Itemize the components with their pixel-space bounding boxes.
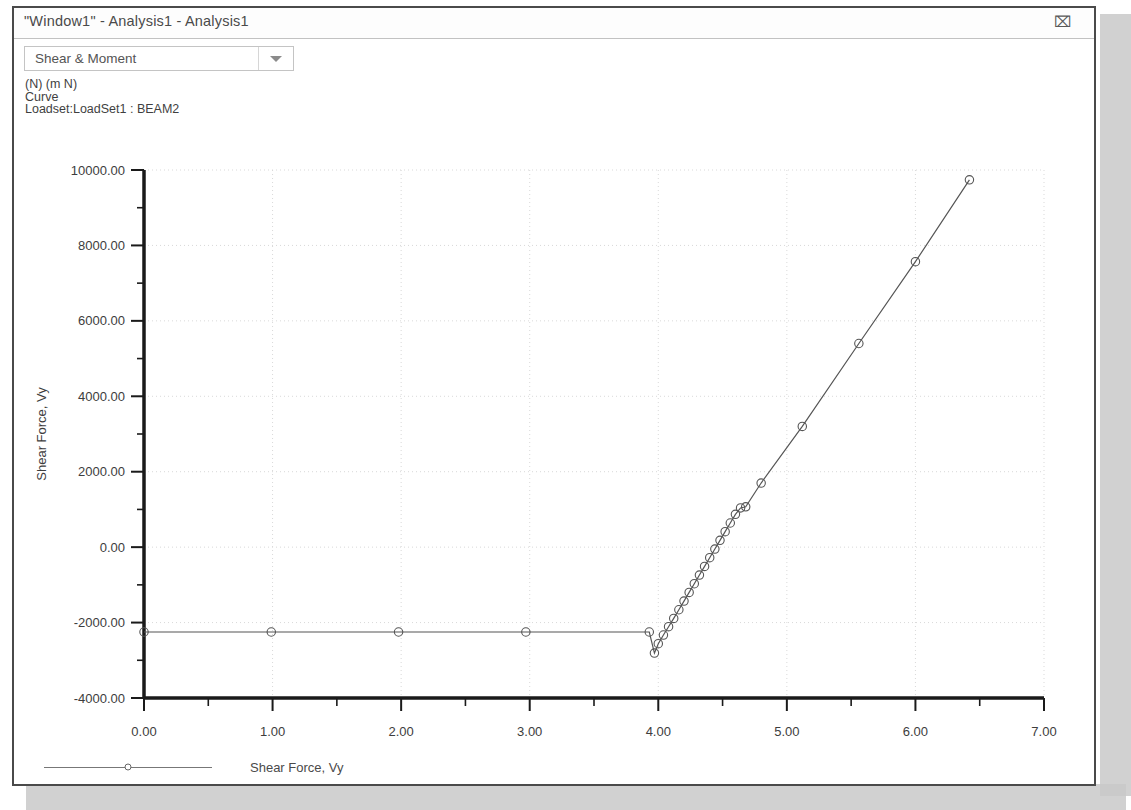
- x-axis-tick-label: 0.00: [131, 724, 156, 739]
- window-titlebar: "Window1" - Analysis1 - Analysis1 ⌧: [14, 8, 1094, 39]
- y-axis-tick-label: -4000.00: [74, 691, 125, 706]
- y-axis-tick-label: 10000.00: [71, 163, 125, 178]
- x-axis-tick-label: 6.00: [903, 724, 928, 739]
- result-type-dropdown-value: Shear & Moment: [35, 51, 136, 66]
- chart-legend: Shear Force, Vy: [44, 756, 343, 778]
- window-title: "Window1" - Analysis1 - Analysis1: [24, 13, 249, 29]
- legend-marker-icon: [125, 764, 132, 771]
- y-axis-tick-label: 4000.00: [78, 389, 125, 404]
- x-axis-tick-label: 2.00: [388, 724, 413, 739]
- y-axis-tick-label: -2000.00: [74, 615, 125, 630]
- x-axis-tick-label: 1.00: [260, 724, 285, 739]
- chart-plot-area: -4000.00-2000.000.002000.004000.006000.0…: [14, 108, 1094, 748]
- result-type-dropdown[interactable]: Shear & Moment: [24, 46, 294, 71]
- dropdown-divider: [258, 47, 259, 70]
- subtitle-units: (N) (m N): [25, 78, 179, 91]
- y-axis-tick-label: 0.00: [100, 540, 125, 555]
- desktop-shadow-bottom: [26, 784, 1126, 810]
- screenshot-root: "Window1" - Analysis1 - Analysis1 ⌧ Shea…: [0, 0, 1131, 810]
- legend-line-sample: [44, 767, 212, 768]
- restore-icon[interactable]: ⌧: [1052, 12, 1072, 32]
- x-axis-tick-label: 7.00: [1031, 724, 1056, 739]
- data-series-line: [144, 180, 969, 653]
- analysis-window: "Window1" - Analysis1 - Analysis1 ⌧ Shea…: [12, 6, 1096, 786]
- chevron-down-icon[interactable]: [270, 56, 282, 62]
- x-axis-tick-label: 5.00: [774, 724, 799, 739]
- desktop-shadow-right: [1100, 14, 1131, 796]
- x-axis-tick-label: 3.00: [517, 724, 542, 739]
- x-axis-tick-label: 4.00: [646, 724, 671, 739]
- shear-force-chart: -4000.00-2000.000.002000.004000.006000.0…: [14, 108, 1094, 748]
- y-axis-tick-label: 6000.00: [78, 313, 125, 328]
- y-axis-tick-label: 2000.00: [78, 464, 125, 479]
- legend-entry-label: Shear Force, Vy: [250, 760, 343, 775]
- y-axis-title: Shear Force, Vy: [34, 387, 49, 481]
- data-point-marker: [965, 176, 973, 184]
- y-axis-tick-label: 8000.00: [78, 238, 125, 253]
